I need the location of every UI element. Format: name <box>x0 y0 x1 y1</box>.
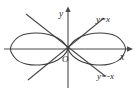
x-axis-arrow-icon <box>127 46 133 52</box>
origin-label: O <box>62 54 69 64</box>
y-axis-label: y <box>58 9 64 19</box>
lemniscate-figure: x y O y=x y=-x <box>0 0 135 92</box>
figure-canvas: x y O y=x y=-x <box>0 0 135 92</box>
x-axis-label: x <box>119 52 125 62</box>
asymptote-label-y-equals-minus-x: y=-x <box>96 71 114 81</box>
asymptote-label-y-equals-x: y=x <box>95 14 110 24</box>
y-axis-arrow-icon <box>65 7 70 13</box>
